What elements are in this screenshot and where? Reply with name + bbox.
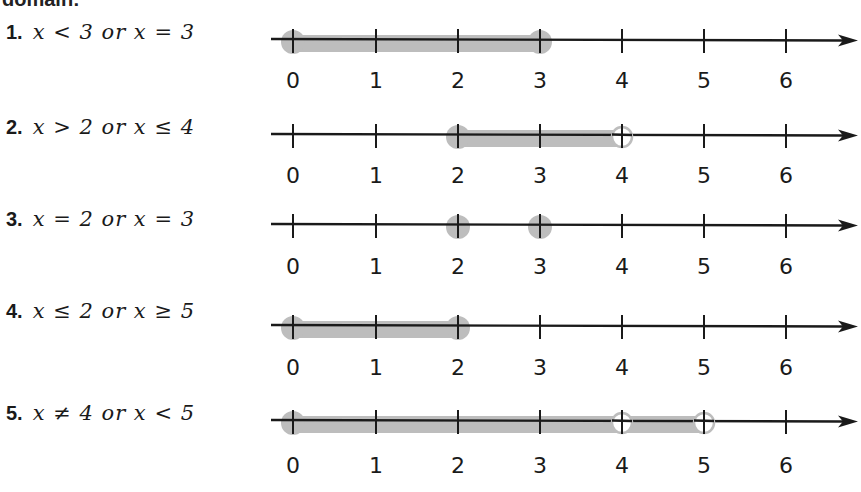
- tick-label: 2: [451, 163, 465, 188]
- tick-label: 2: [451, 453, 465, 478]
- tick-label: 3: [533, 254, 547, 279]
- axis-line: [612, 421, 632, 422]
- axis-line: [271, 224, 844, 226]
- axis-line: [271, 134, 844, 136]
- number-line-2: 0123456: [271, 124, 858, 188]
- tick-label: 5: [697, 163, 711, 188]
- tick-label: 5: [697, 453, 711, 478]
- number-line-3: 0123456: [271, 214, 858, 279]
- tick-label: 6: [779, 355, 793, 380]
- tick-label: 3: [533, 453, 547, 478]
- tick-label: 0: [286, 453, 300, 478]
- number-lines: 01234560123456012345601234560123456: [0, 0, 861, 492]
- axis-line: [694, 421, 714, 422]
- tick-label: 1: [369, 453, 383, 478]
- axis-line: [271, 39, 844, 41]
- tick-label: 1: [369, 355, 383, 380]
- tick-label: 3: [533, 355, 547, 380]
- tick-label: 5: [697, 254, 711, 279]
- tick-label: 1: [369, 163, 383, 188]
- tick-label: 5: [697, 68, 711, 93]
- tick-label: 6: [779, 254, 793, 279]
- axis-line: [271, 325, 844, 327]
- axis-line: [271, 420, 844, 422]
- tick-label: 6: [779, 163, 793, 188]
- tick-label: 4: [615, 163, 629, 188]
- tick-label: 0: [286, 163, 300, 188]
- tick-label: 1: [369, 68, 383, 93]
- tick-label: 5: [697, 355, 711, 380]
- tick-label: 0: [286, 254, 300, 279]
- number-line-1: 0123456: [271, 29, 858, 93]
- tick-label: 2: [451, 254, 465, 279]
- number-line-5: 0123456: [271, 410, 858, 478]
- number-line-4: 0123456: [271, 315, 858, 380]
- tick-label: 0: [286, 355, 300, 380]
- tick-label: 2: [451, 68, 465, 93]
- tick-label: 3: [533, 163, 547, 188]
- tick-label: 3: [533, 68, 547, 93]
- tick-label: 4: [615, 355, 629, 380]
- shaded-interval: [293, 416, 704, 433]
- tick-label: 4: [615, 453, 629, 478]
- tick-label: 4: [615, 254, 629, 279]
- tick-label: 6: [779, 453, 793, 478]
- shaded-interval: [293, 35, 540, 52]
- axis-line: [612, 135, 632, 136]
- tick-label: 0: [286, 68, 300, 93]
- tick-label: 1: [369, 254, 383, 279]
- tick-label: 2: [451, 355, 465, 380]
- tick-label: 4: [615, 68, 629, 93]
- tick-label: 6: [779, 68, 793, 93]
